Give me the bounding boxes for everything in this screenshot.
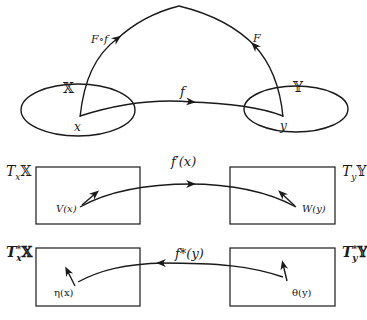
derivative-map-arrow-tail	[188, 184, 296, 207]
pullback-map-arrow-tail	[78, 263, 164, 282]
map-f-arrow-tail	[188, 102, 283, 116]
covector-theta-arrow	[283, 264, 287, 281]
tangent-section: Tx𝕏 Ty𝕐 f′(x) V(x) W(y)	[6, 154, 367, 224]
manifold-section: 𝕏 𝕐 f F∘f F x y	[21, 6, 348, 136]
map-f-label: f	[179, 84, 187, 99]
tangent-space-y-box	[230, 167, 335, 224]
functional-arc	[254, 45, 283, 117]
vector-w-label: W(y)	[302, 203, 326, 214]
functional-arc-upper	[179, 6, 256, 47]
manifold-map-diagram: 𝕏 𝕐 f F∘f F x y Tx𝕏 Ty𝕐 f′(x) V(x)	[0, 0, 367, 320]
vector-v-label: V(x)	[56, 203, 77, 214]
composite-arc	[80, 38, 118, 117]
point-y-label: y	[279, 119, 287, 133]
cotangent-space-x-label: T*x𝕏	[6, 244, 34, 263]
covector-eta-arrow	[67, 270, 75, 286]
functional-label: F	[252, 32, 261, 45]
derivative-map-label: f′(x)	[170, 154, 196, 169]
pullback-map-arrow	[160, 263, 283, 277]
cotangent-section: T*x𝕏 T*y𝕐 f*(y) η(x) θ(y)	[6, 244, 367, 306]
pullback-map-label: f*(y)	[174, 246, 204, 261]
covector-theta-label: θ(y)	[292, 287, 312, 298]
composite-label: F∘f	[90, 33, 110, 46]
space-x-label: 𝕏	[63, 80, 74, 96]
vector-v-arrow	[82, 193, 96, 205]
tangent-space-y-label: Ty𝕐	[342, 163, 367, 182]
covector-eta-label: η(x)	[54, 287, 74, 298]
vector-w-arrow	[281, 193, 295, 206]
point-x-label: x	[74, 120, 81, 134]
composite-arc-upper	[116, 6, 179, 40]
derivative-map-arrow	[80, 184, 192, 207]
cotangent-space-y-label: T*y𝕐	[342, 244, 367, 263]
tangent-space-x-label: Tx𝕏	[6, 163, 31, 182]
space-y-label: 𝕐	[292, 79, 304, 95]
tangent-space-x-box	[36, 167, 140, 224]
map-f-arrow	[80, 101, 192, 116]
